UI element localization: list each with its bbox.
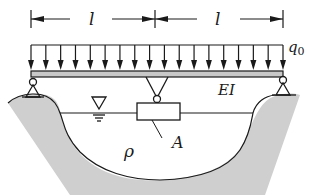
- dimension-line: [31, 10, 283, 28]
- float-block: [137, 103, 180, 120]
- stiffness-label: EI: [217, 81, 236, 99]
- load-arrowhead-icon: [28, 60, 34, 70]
- load-arrowhead-icon: [250, 60, 256, 70]
- load-arrowhead-icon: [72, 60, 78, 70]
- load-arrowhead-icon: [176, 60, 182, 70]
- load-arrowhead-icon: [147, 60, 153, 70]
- load-arrowhead-icon: [132, 60, 138, 70]
- load-arrowhead-icon: [117, 60, 123, 70]
- load-arrowhead-icon: [221, 60, 227, 70]
- load-arrowhead-icon: [206, 60, 212, 70]
- load-arrowhead-icon: [87, 60, 93, 70]
- load-arrowhead-icon: [102, 60, 108, 70]
- load-arrowhead-icon: [191, 60, 197, 70]
- density-label: ρ: [123, 141, 134, 161]
- span-label-right: l: [215, 9, 220, 29]
- load-arrowhead-icon: [280, 60, 286, 70]
- load-arrowhead-icon: [161, 60, 167, 70]
- span-label-left: l: [89, 9, 94, 29]
- load-arrowhead-icon: [43, 60, 49, 70]
- load-arrowhead-icon: [58, 60, 64, 70]
- distributed-load: [28, 45, 286, 70]
- beam: [31, 71, 283, 77]
- float-label: A: [170, 133, 184, 152]
- load-label: q0: [288, 38, 305, 58]
- load-arrowhead-icon: [236, 60, 242, 70]
- float-leader: [152, 120, 162, 138]
- load-arrowhead-icon: [265, 60, 271, 70]
- beam-diagram: l l q0 EI A ρ: [0, 0, 315, 195]
- water-level-icon: [92, 97, 106, 121]
- right-pin-support: [272, 77, 296, 96]
- float-link: [146, 77, 168, 103]
